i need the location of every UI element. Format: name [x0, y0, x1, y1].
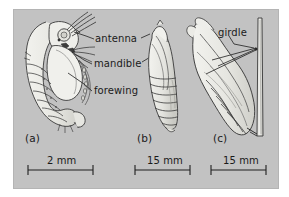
panel-letter-c: (c) [213, 133, 227, 144]
scale-label-c: 15 mm [223, 156, 259, 166]
figure-root: antenna mandible forewing girdle (a) (b)… [0, 0, 289, 197]
callout-label-antenna: antenna [95, 34, 137, 44]
panel-letter-a: (a) [25, 133, 40, 144]
callout-label-girdle: girdle [218, 28, 247, 38]
scale-label-b: 15 mm [147, 156, 183, 166]
callout-label-forewing: forewing [94, 86, 138, 96]
callout-label-mandible: mandible [94, 59, 141, 69]
panel-letter-b: (b) [137, 133, 152, 144]
scale-label-a: 2 mm [47, 156, 76, 166]
